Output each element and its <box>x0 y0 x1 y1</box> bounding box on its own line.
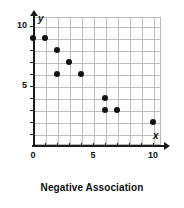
x-axis-arrow-icon <box>164 142 170 150</box>
data-point <box>42 35 48 41</box>
chart-caption: Negative Association <box>0 182 184 193</box>
gridline-vertical <box>130 18 131 144</box>
y-tick-label: 5 <box>9 80 27 90</box>
x-axis-label: x <box>153 130 159 141</box>
y-axis-tick <box>30 122 34 123</box>
x-axis-tick <box>105 143 106 147</box>
data-point <box>66 59 72 65</box>
gridline-vertical <box>70 18 71 144</box>
x-tick-label: 10 <box>145 150 161 160</box>
scatter-plot-figure: 0510510 y x Negative Association <box>0 0 184 208</box>
x-axis-tick <box>117 143 118 147</box>
data-point <box>102 107 108 113</box>
x-axis-tick <box>153 143 154 147</box>
x-axis-tick <box>57 143 58 147</box>
gridline-vertical <box>82 18 83 144</box>
x-tick-label: 5 <box>85 150 101 160</box>
y-axis-tick <box>30 26 34 27</box>
data-point <box>54 71 60 77</box>
data-point <box>78 71 84 77</box>
x-axis-tick <box>129 143 130 147</box>
y-axis-tick <box>30 74 34 75</box>
y-axis-tick <box>30 98 34 99</box>
gridline-vertical <box>154 18 155 144</box>
y-tick-label: 10 <box>9 20 27 30</box>
data-point <box>114 107 120 113</box>
y-axis-arrow-icon <box>30 10 38 16</box>
data-point <box>150 119 156 125</box>
x-axis-tick <box>45 143 46 147</box>
x-tick-label: 0 <box>25 150 41 160</box>
x-axis-tick <box>69 143 70 147</box>
x-axis-tick <box>141 143 142 147</box>
data-point <box>54 47 60 53</box>
y-axis-tick <box>30 62 34 63</box>
plot-area <box>33 17 161 145</box>
gridline-vertical <box>94 18 95 144</box>
data-point <box>30 35 36 41</box>
x-axis-tick <box>33 143 34 147</box>
y-axis-tick <box>30 134 34 135</box>
gridline-vertical <box>118 18 119 144</box>
y-axis-tick <box>30 110 34 111</box>
gridline-vertical <box>142 18 143 144</box>
x-axis-tick <box>81 143 82 147</box>
gridline-horizontal <box>34 27 160 28</box>
y-axis-tick <box>30 50 34 51</box>
x-axis-line <box>32 145 166 147</box>
gridline-vertical <box>106 18 107 144</box>
data-point <box>102 95 108 101</box>
y-axis-tick <box>30 86 34 87</box>
y-axis-line <box>33 14 35 147</box>
x-axis-tick <box>93 143 94 147</box>
y-axis-label: y <box>38 13 44 24</box>
gridline-horizontal <box>34 39 160 40</box>
gridline-vertical <box>58 18 59 144</box>
